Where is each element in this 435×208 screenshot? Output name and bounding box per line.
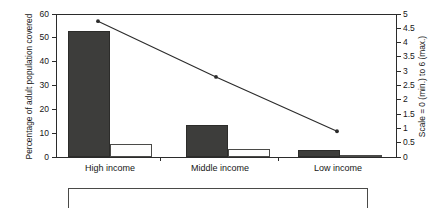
plot-area: [56, 14, 397, 157]
y-axis-right-tick-label: 4.5: [403, 24, 415, 33]
y-axis-right-tick-label: 1: [403, 124, 408, 133]
y-axis-right-tick-label: 3: [403, 67, 408, 76]
line-marker-low-income: [335, 129, 339, 133]
y-axis-right-title: Scale = 0 (min.) to 6 (max.): [418, 2, 427, 172]
y-axis-right-tick: [397, 142, 401, 143]
y-axis-right-tick-label: 2: [403, 95, 408, 104]
y-axis-right-tick-label: 2.5: [403, 81, 415, 90]
y-axis-right-tick: [397, 85, 401, 86]
y-axis-right-tick-label: 5: [403, 10, 408, 19]
y-axis-right-tick-label: 0: [403, 153, 408, 162]
x-axis-label-high-income: High income: [50, 163, 170, 174]
y-axis-right-tick-label: 0.5: [403, 138, 415, 147]
x-axis-tick: [160, 157, 161, 161]
line-marker-high-income: [96, 19, 100, 23]
y-axis-right-tick-label: 4: [403, 38, 408, 47]
chart-figure: 0102030405060 00.511.522.533.544.55 High…: [0, 0, 435, 208]
y-axis-left-title: Percentage of adult population covered: [25, 2, 34, 172]
x-axis-label-middle-income: Middle income: [160, 163, 280, 174]
y-axis-right-tick: [397, 128, 401, 129]
line-series: [56, 14, 397, 157]
y-axis-right-tick-label: 3.5: [403, 52, 415, 61]
line-marker-middle-income: [214, 75, 218, 79]
legend-box: [68, 188, 368, 208]
y-axis-right-tick: [397, 99, 401, 100]
y-axis-right-tick: [397, 157, 401, 158]
y-axis-right-tick: [397, 56, 401, 57]
y-axis-right-tick: [397, 28, 401, 29]
y-axis-right-tick: [397, 42, 401, 43]
y-axis-right-tick: [397, 14, 401, 15]
x-axis-label-low-income: Low income: [278, 163, 398, 174]
y-axis-right-tick: [397, 114, 401, 115]
y-axis-right-tick-label: 1.5: [403, 110, 415, 119]
y-axis-right-tick: [397, 71, 401, 72]
x-axis-tick: [278, 157, 279, 161]
